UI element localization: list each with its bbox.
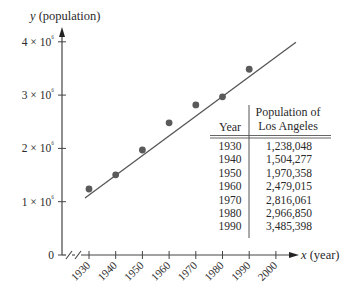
population-table: Year Population of Los Angeles 19301,238… [210,105,331,238]
data-point [112,171,119,178]
table-cell-year: 1980 [219,207,242,219]
data-point [192,102,199,109]
axis-break-icon [66,251,81,259]
table-cell-year: 1970 [219,194,242,206]
x-tick-label: 2000 [255,259,279,283]
x-axis [62,251,299,259]
table-cell-year: 1940 [219,153,242,165]
table-cell-year: 1950 [219,167,242,179]
y-tick-label: 2 × 10⁶ [22,140,55,154]
data-point [139,147,146,154]
data-point [246,66,253,73]
table-row: 19401,504,277 [219,153,313,166]
y-tick-label: 4 × 10⁶ [22,34,55,48]
table-cell-population: 1,504,277 [266,153,312,166]
table-cell-population: 2,479,015 [266,180,312,193]
table-row: 19301,238,048 [219,140,313,153]
x-tick-label: 1960 [148,259,172,283]
data-point [166,119,173,126]
y-axis [59,27,65,255]
x-tick-label: 1970 [175,259,199,283]
y-tick-label: 3 × 10⁶ [22,87,55,101]
y-ticks: 01 × 10⁶2 × 10⁶3 × 10⁶4 × 10⁶ [22,34,66,261]
y-axis-label: y (population) [28,9,100,23]
y-tick-label: 1 × 10⁶ [22,194,55,208]
table-header-population: Population of [256,105,321,119]
x-ticks: 19301940195019601970198019902000 [68,251,279,283]
x-tick-label: 1940 [95,259,119,283]
table-row: 19802,966,850 [219,207,313,220]
table-row: 19602,479,015 [219,180,313,193]
table-cell-population: 1,238,048 [266,140,312,153]
table-header-year: Year [219,120,241,134]
table-cell-population: 1,970,358 [266,167,312,180]
table-header-population: Los Angeles [258,119,318,133]
x-tick-label: 1990 [229,259,253,283]
x-tick-label: 1930 [68,259,92,283]
population-chart: 01 × 10⁶2 × 10⁶3 × 10⁶4 × 10⁶ 1930194019… [0,0,353,302]
table-row: 19501,970,358 [219,167,313,180]
table-row: 19702,816,061 [219,194,313,207]
table-cell-year: 1990 [219,220,242,232]
table-row: 19903,485,398 [219,220,313,233]
y-axis-arrow-icon [59,27,65,37]
x-axis-label: x (year) [300,248,340,262]
x-tick-label: 1950 [122,259,146,283]
x-axis-arrow-icon [289,252,299,258]
table-cell-year: 1960 [219,180,242,192]
table-cell-population: 3,485,398 [266,220,312,233]
data-point [86,186,93,193]
table-cell-population: 2,816,061 [266,194,312,207]
x-tick-label: 1980 [202,259,226,283]
data-point [219,93,226,100]
table-cell-population: 2,966,850 [266,207,312,220]
table-cell-year: 1930 [219,140,242,152]
y-tick-label: 0 [48,249,54,261]
